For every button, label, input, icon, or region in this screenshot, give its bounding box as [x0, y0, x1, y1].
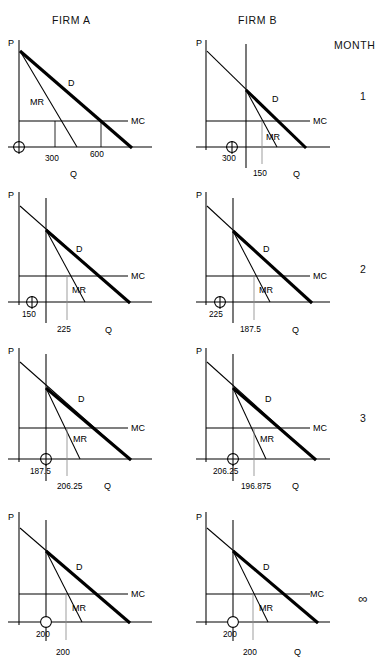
curve-label-d: D [263, 562, 270, 572]
panel-row4-firm-b: P D MR MC 200 200 Q [0, 0, 386, 669]
curve-label-mr: MR [259, 603, 273, 613]
axis-label-q: Q [294, 647, 301, 657]
diagram-sheet: FIRM A FIRM B MONTH 1 2 3 ∞ P D MR MC 30… [0, 0, 386, 669]
axis-label-p: P [196, 512, 202, 522]
curve-label-mc: MC [310, 589, 324, 599]
value-mr-quantity: 200 [243, 647, 257, 657]
value-kink-quantity: 200 [223, 629, 237, 639]
